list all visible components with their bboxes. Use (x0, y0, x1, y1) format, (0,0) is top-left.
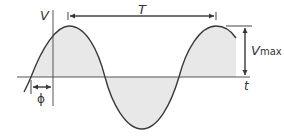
amplitude-label-main: V (251, 43, 260, 58)
phase-label: ϕ (37, 93, 45, 105)
amplitude-label: Vmax (251, 44, 282, 57)
voltage-axis-label: V (40, 9, 49, 22)
sine-wave-diagram: V T Vmax t ϕ (0, 0, 284, 138)
time-axis-label: t (244, 80, 249, 92)
amplitude-label-sub: max (260, 46, 282, 57)
period-label: T (138, 3, 146, 16)
